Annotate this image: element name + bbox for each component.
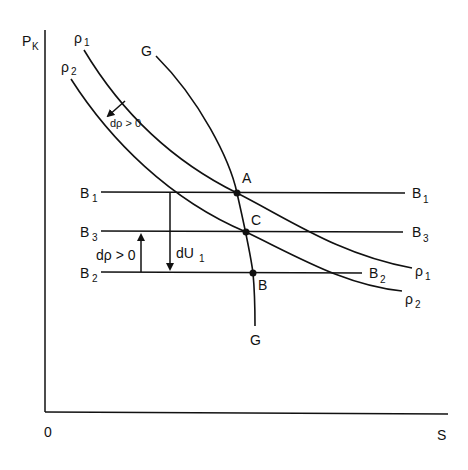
d-rho-annotation: dρ > 0 [96, 235, 141, 272]
rho1-label-sub: 1 [84, 37, 90, 48]
b2-end-label: B [369, 265, 378, 281]
point-c [243, 229, 250, 236]
rho-shift-label: dρ > 0 [110, 117, 141, 129]
b2-line [101, 272, 362, 273]
rho1-curve-group: ρ 1 ρ 1 [74, 30, 431, 282]
b1-end-label: B [412, 185, 421, 201]
b2-line-group: B 2 B 2 [80, 265, 386, 285]
x-axis-label: S [437, 427, 446, 443]
b3-label: B [80, 224, 89, 240]
b2-label: B [80, 265, 89, 281]
point-b-label: B [258, 277, 267, 293]
b3-end-label: B [412, 224, 421, 240]
rho2-end-label: ρ [405, 291, 413, 307]
x-axis [45, 412, 448, 414]
rho2-label-sub: 2 [71, 66, 77, 77]
du1-label-sub: 1 [199, 253, 205, 264]
rho1-label: ρ [74, 30, 82, 46]
rho-shift-arrow [108, 101, 125, 116]
point-a [234, 190, 241, 197]
b1-line [101, 192, 405, 193]
y-axis-label: P [22, 33, 31, 49]
g-end-label: G [250, 332, 261, 348]
b3-label-sub: 3 [92, 232, 98, 243]
rho2-end-label-sub: 2 [415, 299, 421, 310]
b1-label: B [80, 185, 89, 201]
rho1-end-label-sub: 1 [425, 271, 431, 282]
b1-label-sub: 1 [92, 193, 98, 204]
b2-label-sub: 2 [92, 273, 98, 284]
rho1-curve [84, 50, 412, 268]
point-a-label: A [242, 170, 252, 186]
d-rho-label: dρ > 0 [96, 247, 136, 263]
b3-end-label-sub: 3 [423, 233, 429, 244]
economic-diagram: P K 0 S ρ 1 ρ 1 ρ 2 ρ 2 G G B 1 B 1 B 3 … [0, 0, 468, 470]
y-axis-label-sub: K [32, 41, 39, 52]
rho2-label: ρ [61, 59, 69, 75]
b3-line [101, 231, 403, 232]
point-b [250, 270, 257, 277]
point-c-label: C [251, 212, 261, 228]
b2-end-label-sub: 2 [380, 274, 386, 285]
origin-label: 0 [44, 424, 52, 440]
rho1-end-label: ρ [415, 263, 423, 279]
b1-end-label-sub: 1 [423, 194, 429, 205]
du1-label: dU [176, 245, 194, 261]
g-curve [156, 56, 255, 326]
g-label: G [141, 43, 152, 59]
